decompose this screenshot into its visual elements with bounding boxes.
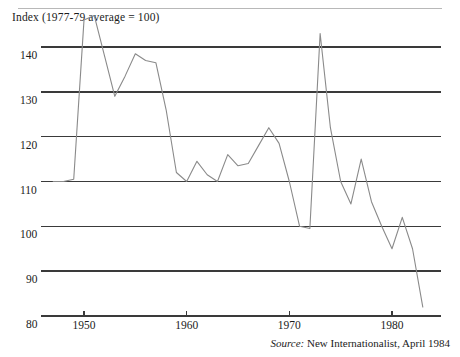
y-tick-label-110: 110 [20, 184, 37, 196]
y-tick-label-130: 130 [20, 94, 37, 106]
chart-plot-area [0, 0, 460, 357]
y-tick-label-90: 90 [26, 273, 38, 285]
data-series-group [53, 16, 423, 307]
x-tick-label-1950: 1950 [68, 319, 100, 331]
y-tick-label-80: 80 [26, 318, 38, 330]
gridlines-group [41, 47, 441, 316]
x-tick-label-1980: 1980 [376, 319, 408, 331]
y-tick-label-100: 100 [20, 228, 37, 240]
y-tick-label-120: 120 [20, 139, 37, 151]
x-tick-label-1970: 1970 [273, 319, 305, 331]
y-tick-label-140: 140 [20, 49, 37, 61]
series-line-0 [53, 16, 423, 307]
x-tick-label-1960: 1960 [171, 319, 203, 331]
source-label: Source: [270, 337, 304, 349]
chart-figure: Index (1977-79 average = 100) 8090100110… [0, 0, 460, 357]
source-note: Source: New Internationalist, April 1984 [270, 337, 450, 349]
source-text: New Internationalist, April 1984 [307, 337, 450, 349]
